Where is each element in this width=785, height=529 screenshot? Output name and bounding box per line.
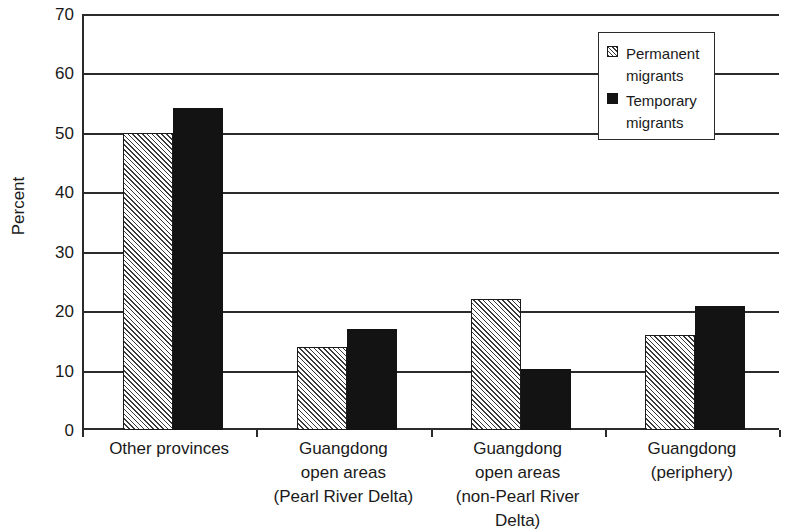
chart-legend: Permanent migrants Temporary migrants bbox=[598, 32, 715, 140]
legend-label-line: Temporary bbox=[626, 92, 697, 109]
y-axis-tick-label: 70 bbox=[30, 6, 74, 23]
bar-permanent-migrants bbox=[471, 299, 521, 430]
y-axis-tick-label: 50 bbox=[30, 124, 74, 141]
bar-temporary-migrants bbox=[173, 108, 223, 430]
legend-label-line: migrants bbox=[626, 114, 684, 131]
y-axis-tick-label: 60 bbox=[30, 65, 74, 82]
y-axis-tick-label: 0 bbox=[30, 422, 74, 439]
x-axis-category-label-line: Guangdong bbox=[244, 437, 442, 461]
x-axis-category-label-line: Guangdong bbox=[593, 437, 785, 461]
bar-temporary-migrants bbox=[695, 306, 745, 430]
bar-permanent-migrants bbox=[645, 335, 695, 430]
x-axis-tick bbox=[605, 430, 607, 437]
legend-swatch-hatched-icon bbox=[607, 46, 618, 57]
x-axis-category-label-line: (periphery) bbox=[593, 461, 785, 485]
x-axis-category-label-line: open areas bbox=[419, 461, 617, 485]
legend-label-permanent-migrants: Permanent migrants bbox=[626, 43, 716, 87]
legend-label-line: Permanent bbox=[626, 45, 699, 62]
gridline bbox=[82, 14, 779, 16]
y-axis-tick-label: 40 bbox=[30, 184, 74, 201]
x-axis-category-labels: Other provincesGuangdongopen areas(Pearl… bbox=[82, 437, 779, 529]
x-axis-category-label-line: (non-Pearl River bbox=[419, 485, 617, 509]
x-axis-category-label: Guangdong(periphery) bbox=[593, 437, 785, 485]
x-axis-category-label: Guangdongopen areas(non-Pearl RiverDelta… bbox=[419, 437, 617, 529]
bar-temporary-migrants bbox=[347, 329, 397, 430]
y-axis-tick-label: 20 bbox=[30, 303, 74, 320]
x-axis-category-label-line: (Pearl River Delta) bbox=[244, 485, 442, 509]
bar-permanent-migrants bbox=[297, 347, 347, 430]
x-axis-tick bbox=[431, 430, 433, 437]
x-axis-tick bbox=[779, 430, 781, 437]
y-axis-tick-labels: 010203040506070 bbox=[24, 0, 74, 529]
x-axis-category-label-line: Delta) bbox=[419, 509, 617, 529]
x-axis-category-label: Guangdongopen areas(Pearl River Delta) bbox=[244, 437, 442, 509]
y-axis-tick-label: 10 bbox=[30, 362, 74, 379]
x-axis-category-label-line: Other provinces bbox=[70, 437, 268, 461]
x-axis-category-label: Other provinces bbox=[70, 437, 268, 461]
legend-swatch-solid-icon bbox=[607, 93, 618, 104]
x-axis-category-label-line: Guangdong bbox=[419, 437, 617, 461]
y-axis-line bbox=[82, 14, 84, 430]
x-axis-category-label-line: open areas bbox=[244, 461, 442, 485]
legend-label-line: migrants bbox=[626, 67, 684, 84]
x-axis-tick bbox=[82, 430, 84, 437]
bar-temporary-migrants bbox=[521, 369, 571, 430]
legend-label-temporary-migrants: Temporary migrants bbox=[626, 90, 716, 134]
y-axis-tick-label: 30 bbox=[30, 243, 74, 260]
x-axis-tick bbox=[256, 430, 258, 437]
bar-permanent-migrants bbox=[123, 133, 173, 430]
